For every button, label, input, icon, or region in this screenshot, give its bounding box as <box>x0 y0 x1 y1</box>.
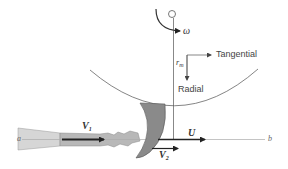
radial-label: Radial <box>178 85 204 94</box>
pelton-wheel-diagram: ω rm Tangential Radial V1 V2 U a b <box>0 0 288 169</box>
radius-label-sub: m <box>179 62 183 68</box>
rotation-arrow-icon <box>156 9 180 31</box>
v2-label-sub: 2 <box>166 155 169 161</box>
nozzle <box>18 128 60 150</box>
omega-label: ω <box>183 26 190 36</box>
v1-label-main: V <box>82 120 89 131</box>
radius-label: rm <box>176 59 183 68</box>
axle-circle <box>169 11 176 18</box>
diagram-svg <box>0 0 288 169</box>
u-label: U <box>188 128 195 138</box>
point-b-label: b <box>268 135 272 143</box>
v2-label-main: V <box>159 149 166 160</box>
v1-label: V1 <box>82 121 92 132</box>
v2-label: V2 <box>159 150 169 161</box>
tangential-axis-arrow <box>187 55 211 79</box>
v1-label-sub: 1 <box>89 126 92 132</box>
point-a-label: a <box>17 135 21 143</box>
wheel-rim-arc <box>90 69 258 106</box>
tangential-label: Tangential <box>216 50 257 59</box>
